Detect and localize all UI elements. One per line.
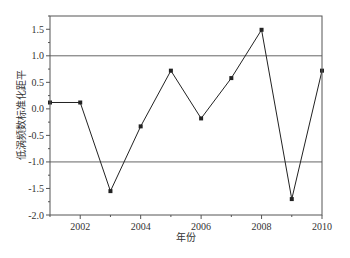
- y-tick-label: -1.0: [28, 156, 44, 167]
- series-line: [50, 30, 322, 199]
- y-tick-label: -1.5: [28, 183, 44, 194]
- data-point-marker: [199, 116, 203, 120]
- data-point-marker: [169, 69, 173, 73]
- data-point-marker: [229, 76, 233, 80]
- y-axis-title: 低涡频数标准化距平: [15, 70, 27, 160]
- y-tick-label: -0.5: [28, 130, 44, 141]
- x-axis: 20022004200620082010: [50, 215, 332, 232]
- data-point-marker: [260, 28, 264, 32]
- x-tick-label: 2006: [191, 221, 211, 232]
- y-tick-label: 0.0: [32, 103, 45, 114]
- data-point-marker: [290, 197, 294, 201]
- reference-lines: [50, 56, 322, 162]
- data-point-marker: [139, 124, 143, 128]
- y-tick-label: 1.5: [32, 24, 45, 35]
- y-tick-label: 0.5: [32, 77, 45, 88]
- y-tick-label: 1.0: [32, 50, 45, 61]
- x-tick-label: 2004: [131, 221, 151, 232]
- data-point-marker: [78, 100, 82, 104]
- x-tick-label: 2008: [252, 221, 272, 232]
- x-tick-label: 2010: [312, 221, 332, 232]
- plot-frame: [50, 16, 322, 215]
- line-chart: -2.0-1.5-1.0-0.50.00.51.01.5 20022004200…: [0, 0, 350, 258]
- y-tick-label: -2.0: [28, 210, 44, 221]
- data-series: [48, 28, 324, 201]
- y-axis: -2.0-1.5-1.0-0.50.00.51.01.5: [28, 16, 50, 221]
- x-axis-title: 年份: [176, 231, 196, 243]
- data-point-marker: [108, 189, 112, 193]
- x-tick-label: 2002: [70, 221, 90, 232]
